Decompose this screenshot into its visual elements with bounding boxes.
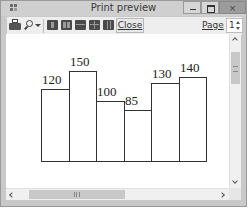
scroll-right-icon[interactable] [218, 189, 229, 200]
bar-value-label: 100 [97, 84, 117, 100]
printer-icon-body [9, 23, 21, 30]
vertical-scroll-thumb[interactable] [231, 52, 240, 84]
chart-bar [96, 101, 125, 161]
three-pages-button[interactable] [75, 20, 86, 30]
chart-bar [179, 77, 207, 161]
spinner-up-icon[interactable] [236, 20, 241, 25]
bar-value-label: 150 [70, 54, 90, 70]
close-preview-button[interactable]: Close [116, 18, 144, 33]
title-bar[interactable]: Print preview × [1, 1, 246, 16]
zoom-dropdown-icon[interactable] [35, 19, 41, 32]
scroll-left-icon[interactable] [6, 189, 17, 200]
print-button[interactable] [9, 19, 21, 32]
four-pages-button[interactable] [89, 20, 100, 30]
page-label: Page [202, 20, 224, 30]
chart-bar [41, 89, 70, 161]
scrollbar-corner [229, 188, 241, 200]
chart-baseline [41, 161, 207, 162]
preview-page: 12015010085130140 [6, 34, 229, 188]
zoom-icon-handle [24, 26, 28, 30]
bar-value-label: 85 [125, 93, 138, 109]
toolbar: Close Page 1 [7, 17, 242, 35]
chart-bar [124, 110, 152, 161]
six-pages-button[interactable] [103, 20, 114, 30]
horizontal-scrollbar[interactable] [6, 188, 229, 200]
horizontal-scroll-thumb[interactable] [29, 190, 125, 199]
close-icon: × [220, 2, 245, 14]
page-spinner[interactable]: 1 [226, 18, 243, 33]
two-pages-button[interactable] [61, 20, 72, 30]
scroll-down-icon[interactable] [230, 177, 241, 188]
scroll-up-icon[interactable] [230, 34, 241, 45]
zoom-button[interactable] [23, 19, 34, 32]
maximize-button[interactable] [201, 1, 219, 14]
minimize-button[interactable] [183, 1, 201, 14]
toolbar-separator [43, 19, 44, 33]
vertical-scrollbar[interactable] [229, 34, 241, 188]
bar-value-label: 130 [152, 66, 172, 82]
close-window-button[interactable]: × [219, 1, 246, 14]
bar-value-label: 120 [42, 72, 62, 88]
chart-bar [69, 71, 97, 161]
page-number-input[interactable]: 1 [229, 20, 235, 30]
spinner-down-icon[interactable] [236, 26, 241, 31]
one-page-button[interactable] [47, 20, 58, 30]
bar-value-label: 140 [180, 60, 200, 76]
chart-bar [151, 83, 180, 161]
